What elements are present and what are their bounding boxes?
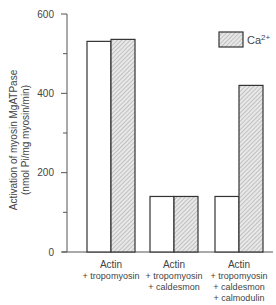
category-label-line: + caldesmon xyxy=(213,282,264,292)
y-tick-0: 0 xyxy=(48,247,54,258)
bar-no-ca-1 xyxy=(87,41,111,252)
category-label-line: + calmodulin xyxy=(214,293,265,303)
y-axis-label: Activation of myosin MgATPase xyxy=(8,69,19,210)
legend-label-ca: Ca2+ xyxy=(247,33,271,46)
category-label-line: Actin xyxy=(228,259,250,270)
category-label-line: + tropomyosin xyxy=(83,271,140,281)
y-axis-units: (nmol Pi/mg myosin/min) xyxy=(20,85,31,195)
y-tick-200: 200 xyxy=(37,167,54,178)
y-tick-400: 400 xyxy=(37,88,54,99)
category-label-line: + caldesmon xyxy=(148,282,199,292)
bars xyxy=(87,39,263,252)
legend-swatch-ca xyxy=(219,32,243,47)
bar-ca-3 xyxy=(239,85,263,252)
bar-chart: 600 400 200 0 Activation of myosin MgATP… xyxy=(0,0,276,305)
bar-ca-1 xyxy=(111,39,135,252)
bar-no-ca-2 xyxy=(150,196,174,252)
y-tick-600: 600 xyxy=(37,9,54,20)
category-label-line: + tropomyosin xyxy=(146,271,203,281)
category-labels: Actin+ tropomyosinActin+ tropomyosin+ ca… xyxy=(83,259,268,303)
category-label-line: Actin xyxy=(163,259,185,270)
category-label-line: Actin xyxy=(100,259,122,270)
bar-no-ca-3 xyxy=(215,196,239,252)
legend: Ca2+ xyxy=(219,32,271,47)
y-ticks xyxy=(61,14,67,252)
bar-ca-2 xyxy=(174,196,198,252)
category-label-line: + tropomyosin xyxy=(211,271,268,281)
